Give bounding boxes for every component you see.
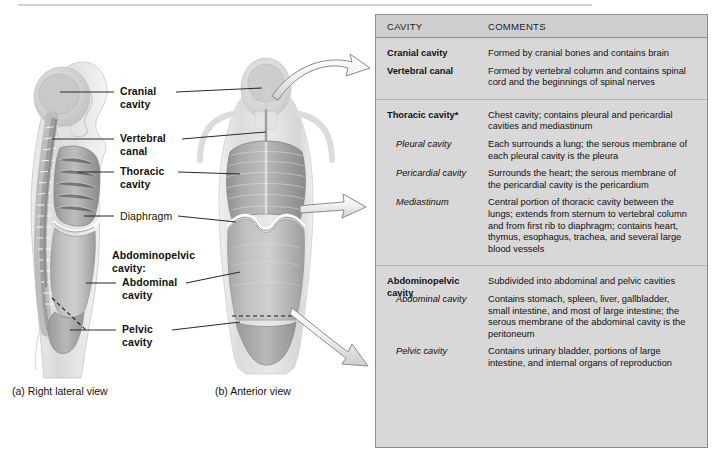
figure-page: Cranial cavity Vertebral canal Thoracic …: [0, 0, 714, 460]
table-row: Mediastinum Central portion of thoracic …: [376, 194, 707, 258]
label-vertebral-canal: Vertebral canal: [120, 132, 166, 157]
row-term: Pelvic cavity: [396, 346, 488, 358]
lateral-hip-contour: [36, 330, 40, 370]
label-cranial-cavity: Cranial cavity: [120, 85, 156, 110]
table-row: Cranial cavity Formed by cranial bones a…: [376, 45, 707, 63]
anterior-view-figure: [200, 58, 332, 374]
table-body: Cranial cavity Formed by cranial bones a…: [376, 38, 707, 379]
row-term: Mediastinum: [396, 197, 488, 209]
row-term: Thoracic cavity*: [387, 110, 485, 122]
row-term: Pericardial cavity: [396, 168, 488, 180]
cavity-comments-table: CAVITY COMMENTS Cranial cavity Formed by…: [375, 14, 708, 448]
table-group-cranial-vertebral: Cranial cavity Formed by cranial bones a…: [376, 38, 707, 100]
label-diaphragm: Diaphragm: [120, 210, 172, 223]
table-row: Vertebral canal Formed by vertebral colu…: [376, 63, 707, 92]
lateral-cranial-cavity: [39, 74, 79, 114]
table-group-abdominopelvic: Abdominopelvic cavity Subdivided into ab…: [376, 266, 707, 379]
lateral-view-figure: [31, 62, 107, 378]
anterior-cranial-cavity: [248, 64, 284, 102]
row-description: Formed by cranial bones and contains bra…: [488, 48, 699, 60]
caption-anterior-view: (b) Anterior view: [215, 385, 291, 397]
row-term: Abdominal cavity: [396, 294, 488, 306]
row-description: Formed by vertebral column and contains …: [488, 66, 699, 89]
row-description: Contains urinary bladder, portions of la…: [488, 346, 699, 369]
table-row: Abdominopelvic cavity Subdivided into ab…: [376, 273, 707, 291]
anterior-abdominal-cavity: [228, 219, 305, 320]
table-group-thoracic: Thoracic cavity* Chest cavity; contains …: [376, 100, 707, 267]
row-term: Vertebral canal: [387, 66, 485, 78]
column-header-cavity: CAVITY: [387, 21, 422, 32]
caption-lateral-view: (a) Right lateral view: [12, 385, 108, 397]
label-abdominopelvic-cavity: Abdominopelvic cavity:: [112, 249, 195, 274]
row-term: Cranial cavity: [387, 48, 485, 60]
table-row: Pericardial cavity Surrounds the heart; …: [376, 165, 707, 194]
row-description: Each surrounds a lung; the serous membra…: [488, 139, 699, 162]
table-row: Abdominal cavity Contains stomach, splee…: [376, 291, 707, 343]
row-description: Contains stomach, spleen, liver, gallbla…: [488, 294, 699, 340]
anatomy-figure-area: Cranial cavity Vertebral canal Thoracic …: [0, 0, 372, 460]
label-pelvic-cavity: Pelvic cavity: [122, 323, 153, 348]
table-header-row: CAVITY COMMENTS: [376, 15, 707, 38]
row-description: Surrounds the heart; the serous membrane…: [488, 168, 699, 191]
row-description: Subdivided into abdominal and pelvic cav…: [488, 276, 699, 288]
column-header-comments: COMMENTS: [488, 21, 546, 32]
label-thoracic-cavity: Thoracic cavity: [120, 165, 165, 190]
row-description: Central portion of thoracic cavity betwe…: [488, 197, 699, 255]
table-row: Thoracic cavity* Chest cavity; contains …: [376, 107, 707, 136]
label-abdominal-cavity: Abdominal cavity: [122, 276, 177, 301]
table-row: Pelvic cavity Contains urinary bladder, …: [376, 343, 707, 372]
table-row: Pleural cavity Each surrounds a lung; th…: [376, 136, 707, 165]
row-description: Chest cavity; contains pleural and peric…: [488, 110, 699, 133]
row-term: Pleural cavity: [396, 139, 488, 151]
